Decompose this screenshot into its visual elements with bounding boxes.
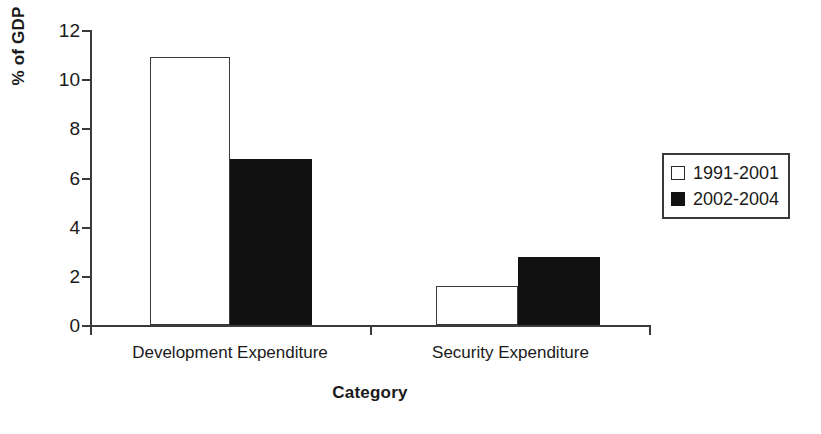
- x-category-label-security: Security Expenditure: [370, 342, 651, 364]
- x-tick-mark-middle: [370, 326, 372, 335]
- x-tick-mark-right: [649, 326, 651, 335]
- bar-chart: % of GDP 12 10 8 6 4 2 0 Development Exp…: [0, 0, 821, 434]
- y-tick-label-0: 0: [46, 316, 80, 335]
- legend-label-2002-2004: 2002-2004: [693, 189, 779, 209]
- white-square-icon: [671, 166, 685, 180]
- chart-legend: 1991-2001 2002-2004: [662, 153, 790, 219]
- legend-label-1991-2001: 1991-2001: [693, 163, 779, 183]
- bar-development-2002-2004: [230, 159, 312, 325]
- y-tick-label-8: 8: [46, 119, 80, 138]
- y-tick-label-4: 4: [46, 218, 80, 237]
- x-axis-title: Category: [0, 383, 740, 403]
- y-tick-mark-10: [82, 79, 91, 81]
- y-tick-label-10: 10: [46, 70, 80, 89]
- y-tick-mark-4: [82, 227, 91, 229]
- y-axis-title: % of GDP: [6, 0, 32, 126]
- black-square-icon: [671, 192, 685, 206]
- y-tick-mark-6: [82, 178, 91, 180]
- y-tick-label-12: 12: [46, 21, 80, 40]
- y-tick-mark-2: [82, 276, 91, 278]
- y-tick-mark-12: [82, 30, 91, 32]
- bar-security-2002-2004: [518, 257, 600, 325]
- bar-security-1991-2001: [436, 286, 518, 325]
- x-category-label-development: Development Expenditure: [90, 342, 370, 364]
- legend-item-2002-2004: 2002-2004: [671, 186, 779, 212]
- y-axis-tick-labels: 12 10 8 6 4 2 0: [46, 0, 80, 434]
- x-tick-mark-left: [90, 326, 92, 335]
- y-tick-label-6: 6: [46, 169, 80, 188]
- y-tick-mark-8: [82, 128, 91, 130]
- legend-item-1991-2001: 1991-2001: [671, 160, 779, 186]
- y-tick-label-2: 2: [46, 267, 80, 286]
- bar-development-1991-2001: [150, 57, 230, 325]
